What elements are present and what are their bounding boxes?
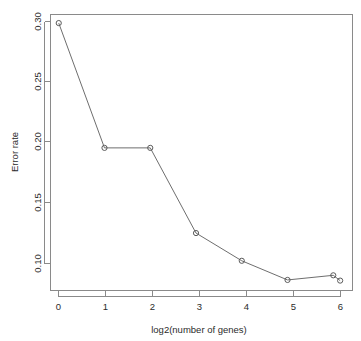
x-tick-label-4: 4 (244, 301, 249, 312)
data-series-error-rate (56, 20, 343, 283)
series-markers (56, 20, 343, 283)
x-tick-label-5: 5 (291, 301, 296, 312)
y-tick-label-1: 0.15 (32, 193, 43, 212)
y-tick-label-0: 0.10 (32, 254, 43, 273)
y-tick-label-2: 0.20 (32, 132, 43, 151)
series-line (59, 23, 340, 281)
x-tick-label-0: 0 (56, 301, 61, 312)
y-axis: 0.10 0.15 0.20 0.25 0.30 (32, 12, 51, 273)
x-axis: 0 1 2 3 4 5 6 (56, 291, 343, 313)
y-axis-title: Error rate (9, 132, 20, 172)
y-tick-label-3: 0.25 (32, 72, 43, 91)
x-tick-label-6: 6 (338, 301, 343, 312)
x-axis-title: log2(number of genes) (151, 324, 247, 335)
x-tick-label-2: 2 (150, 301, 155, 312)
y-tick-label-4: 0.30 (32, 12, 43, 31)
error-rate-line-chart: 0.10 0.15 0.20 0.25 0.30 Error rate 0 1 … (0, 0, 361, 341)
x-tick-label-1: 1 (103, 301, 108, 312)
plot-panel-border (51, 15, 353, 291)
x-tick-label-3: 3 (197, 301, 202, 312)
chart-container: 0.10 0.15 0.20 0.25 0.30 Error rate 0 1 … (0, 0, 361, 341)
